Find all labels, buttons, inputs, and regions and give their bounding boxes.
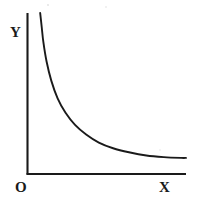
scan-speck [159, 149, 161, 151]
x-axis-label: X [159, 180, 170, 195]
scan-speck [105, 6, 107, 8]
scan-speck [47, 4, 49, 6]
y-axis-label: Y [10, 25, 21, 40]
decay-curve [40, 13, 186, 158]
origin-label: O [15, 180, 27, 195]
chart-figure: Y O X [0, 0, 197, 210]
